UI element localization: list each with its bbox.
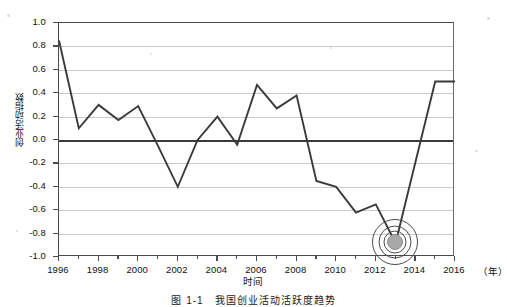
scan-speck	[487, 17, 490, 20]
x-axis-tick-mark	[98, 256, 99, 261]
x-axis-tick-mark	[236, 256, 237, 259]
y-axis-tick-label: -0.6	[0, 204, 46, 214]
x-axis-tick-mark	[177, 256, 178, 261]
scan-speck	[330, 47, 332, 49]
x-axis-tick-mark	[216, 256, 217, 261]
plot-area	[58, 22, 454, 256]
y-axis-tick-label: -0.4	[0, 181, 46, 191]
figure-caption: 图 1-1 我国创业活动活跃度趋势	[0, 292, 507, 307]
y-axis-tick-label: 0.2	[0, 111, 46, 121]
x-axis-tick-mark	[315, 256, 316, 259]
x-axis-tick-mark	[434, 256, 435, 259]
x-axis-tick-mark	[78, 256, 79, 259]
x-axis-tick-mark	[454, 256, 455, 261]
x-axis-tick-mark	[375, 256, 376, 261]
y-axis-tick-label: 0.4	[0, 87, 46, 97]
x-axis-title: 时间	[0, 274, 507, 288]
scan-speck	[7, 14, 10, 17]
x-axis-tick-mark	[256, 256, 257, 261]
x-axis-tick-mark	[58, 256, 59, 261]
x-axis-tick-mark	[355, 256, 356, 259]
x-axis-tick-mark	[414, 256, 415, 261]
y-axis-tick-label: 0.6	[0, 64, 46, 74]
scan-speck	[150, 53, 152, 55]
x-axis-tick-mark	[117, 256, 118, 259]
y-axis-tick-label: 0.0	[0, 134, 46, 144]
x-axis-tick-mark	[335, 256, 336, 261]
x-axis-tick-mark	[137, 256, 138, 261]
x-axis-tick-mark	[296, 256, 297, 261]
x-axis-tick-mark	[395, 256, 396, 259]
y-axis-tick-label: -0.8	[0, 228, 46, 238]
y-axis-tick-label: -1.0	[0, 251, 46, 261]
y-axis-tick-label: 1.0	[0, 17, 46, 27]
y-axis-tick-label: -0.2	[0, 157, 46, 167]
x-axis-tick-mark	[157, 256, 158, 259]
x-axis-tick-mark	[276, 256, 277, 259]
scan-speck	[16, 230, 18, 232]
y-axis-tick-label: 0.8	[0, 40, 46, 50]
x-axis-tick-mark	[197, 256, 198, 259]
scan-speck	[475, 150, 478, 152]
series-line-chuangye-index	[59, 23, 455, 257]
